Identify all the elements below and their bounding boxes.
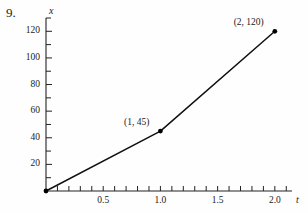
- ticks-group: [46, 18, 286, 191]
- y-axis-label: x: [49, 5, 53, 16]
- data-point-marker-0: [44, 189, 49, 194]
- y-tick-label-80: 80: [6, 79, 40, 89]
- y-tick-label-60: 60: [6, 105, 40, 115]
- y-tick-label-100: 100: [6, 52, 40, 62]
- data-point-markers: [44, 29, 278, 193]
- x-tick-label-1: 1.0: [144, 195, 176, 205]
- annotation-0: (1, 45): [124, 117, 149, 127]
- y-tick-label-40: 40: [6, 132, 40, 142]
- data-point-marker-1: [158, 129, 163, 134]
- annotation-1: (2, 120): [234, 17, 264, 27]
- data-series-group: [46, 31, 275, 191]
- line-chart-plot: [0, 0, 308, 213]
- data-point-marker-2: [272, 29, 277, 34]
- x-tick-label-0.5: 0.5: [87, 195, 119, 205]
- data-line-path: [46, 31, 275, 191]
- axes-group: [46, 18, 292, 191]
- figure-container: 9. 20406080100120 0.51.01.52.0 (1, 45)(2…: [0, 0, 308, 213]
- y-tick-label-20: 20: [6, 158, 40, 168]
- x-tick-label-1.5: 1.5: [202, 195, 234, 205]
- x-axis-label: t: [296, 194, 299, 205]
- x-tick-label-2: 2.0: [259, 195, 291, 205]
- y-tick-label-120: 120: [6, 25, 40, 35]
